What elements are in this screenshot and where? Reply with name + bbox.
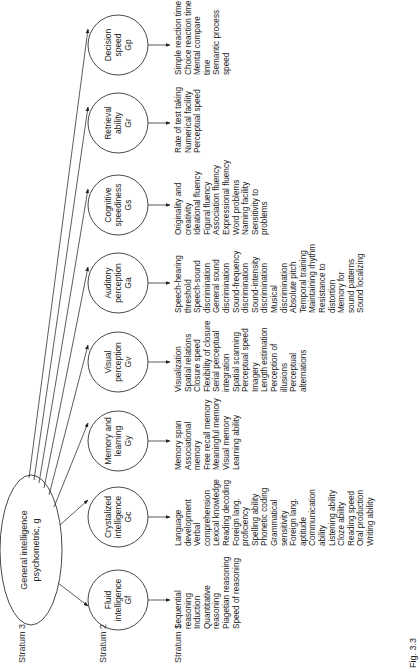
narrow-ability-item: Reading decoding [222, 479, 232, 546]
broad-ability-label-line: perception [113, 253, 123, 313]
narrow-ability-item: Visual memory [222, 398, 232, 470]
narrow-ability-item: time [203, 0, 213, 75]
narrow-list-gf: SequentialreasoningInductionQuantitative… [174, 557, 241, 629]
broad-ability-label-line: Fluid [103, 570, 113, 630]
narrow-list-gv: VisualizationSpatial relationsClosure sp… [174, 321, 308, 392]
narrow-list-gp: Simple reaction timeChoice reaction time… [174, 0, 232, 75]
narrow-ability-item: Simple reaction time [174, 0, 184, 75]
stratum-1-label: Stratum 1 [173, 624, 183, 663]
narrow-ability-item: Rate of test taking [174, 87, 184, 153]
narrow-ability-item: discrimination [222, 244, 232, 313]
narrow-ability-item: Absolute pitch [289, 244, 299, 313]
narrow-ability-item: memory [193, 398, 203, 470]
narrow-ability-item: Serial perceptual [212, 321, 222, 392]
narrow-ability-item: discrimination [260, 244, 270, 313]
broad-to-narrow-arrows [148, 45, 170, 600]
broad-ability-label-line: Gp [123, 15, 133, 75]
narrow-ability-item: discrimination [280, 244, 290, 313]
broad-ability-label-line: Gc [123, 487, 133, 547]
broad-ability-label-line: intelligence [113, 487, 123, 547]
narrow-ability-item: Numerical facility [184, 87, 194, 153]
narrow-ability-item: Oral production [356, 479, 366, 546]
narrow-ability-item: Lexical knowledge [212, 479, 222, 546]
narrow-ability-item: Sequential [174, 557, 184, 629]
narrow-ability-item: Phonetic coding [260, 479, 270, 546]
narrow-ability-item: Expressional fluency [222, 160, 232, 235]
narrow-ability-item: proficiency [241, 479, 251, 546]
narrow-ability-item: Speech-hearing [174, 244, 184, 313]
narrow-ability-item: Flexibility of closure [203, 321, 213, 392]
narrow-ability-item: Listening ability [328, 479, 338, 546]
narrow-ability-item: Perception of [270, 321, 280, 392]
narrow-ability-item: Ideational fluency [193, 160, 203, 235]
label-gf: Fluid intelligence Gf [103, 570, 133, 630]
narrow-ability-item: problems [260, 160, 270, 235]
broad-ability-label-line: speed [113, 15, 123, 75]
narrow-ability-item: sensitivity [280, 479, 290, 546]
narrow-ability-item: Mental compare [193, 0, 203, 75]
narrow-ability-item: alternations [299, 321, 309, 392]
narrow-ability-item: Sensitivity to [251, 160, 261, 235]
broad-ability-label-line: Crystalized [103, 487, 113, 547]
label-gs: Cognitive speediness Gs [103, 175, 133, 235]
label-gv: Visual perception Gv [103, 332, 133, 392]
broad-ability-label-line: Auditory [103, 253, 113, 313]
narrow-ability-item: Meaningful memory [212, 398, 222, 470]
narrow-ability-item: Spelling ability [251, 479, 261, 546]
narrow-ability-item: Semantic process [212, 0, 222, 75]
narrow-ability-item: Resistance to [318, 244, 328, 313]
narrow-ability-item: Perceptual [289, 321, 299, 392]
general-intelligence-line2: psychometric, g [31, 504, 43, 596]
narrow-ability-item: comprehension [203, 479, 213, 546]
narrow-ability-item: discrimination [241, 244, 251, 313]
narrow-ability-item: Sound localizing [356, 244, 366, 313]
broad-ability-label-line: Memory and [103, 411, 113, 471]
diagram-canvas: Stratum 3 Stratum 2 Stratum 1 General in… [0, 0, 419, 671]
narrow-ability-item: Musical [270, 244, 280, 313]
narrow-ability-item: Temporal training [299, 244, 309, 313]
label-gr: Retrieval ability Gr [103, 93, 133, 153]
broad-ability-label-line: perception [113, 332, 123, 392]
stratum-3-label: Stratum 3 [17, 624, 27, 663]
narrow-ability-item: Free recall memory [203, 398, 213, 470]
narrow-ability-item: Closure speed [193, 321, 203, 392]
narrow-ability-item: Choice reaction time [184, 0, 194, 75]
narrow-ability-item: reasoning [184, 557, 194, 629]
narrow-ability-item: Piagetian reasoning [222, 557, 232, 629]
broad-ability-label-line: learning [113, 411, 123, 471]
narrow-ability-item: Sound-intensity [251, 244, 261, 313]
narrow-ability-item: Learning ability [232, 398, 242, 470]
broad-ability-label-line: Gv [123, 332, 133, 392]
narrow-ability-item: Figural fluency [203, 160, 213, 235]
narrow-list-gy: Memory spanAssociationalmemoryFree recal… [174, 398, 241, 470]
narrow-ability-item: Associational [184, 398, 194, 470]
narrow-list-gc: LanguagedevelopmentVerbalcomprehensionLe… [174, 479, 375, 546]
narrow-list-gr: Rate of test takingNumerical facilityPer… [174, 87, 203, 153]
narrow-ability-item: development [184, 479, 194, 546]
narrow-ability-item: Naming facility [241, 160, 251, 235]
figure-caption: Fig. 3.3 [408, 638, 418, 668]
label-gp: Decision speed Gp [103, 15, 133, 75]
broad-ability-label-line: Gy [123, 411, 133, 471]
narrow-ability-item: Induction [193, 557, 203, 629]
label-gc: Crystalized intelligence Gc [103, 487, 133, 547]
narrow-ability-item: Perceptual speed [241, 321, 251, 392]
narrow-ability-item: Memory for [337, 244, 347, 313]
narrow-ability-item: Spatial scanning [232, 321, 242, 392]
narrow-ability-item: Speed of reasoning [232, 557, 242, 629]
broad-ability-label-line: Gf [123, 570, 133, 630]
narrow-ability-item: Cloze ability [337, 479, 347, 546]
broad-ability-label-line: speediness [113, 175, 123, 235]
broad-ability-label-line: Gs [123, 175, 133, 235]
narrow-ability-item: General sound [212, 244, 222, 313]
narrow-ability-item: ability [318, 479, 328, 546]
broad-ability-label-line: Ga [123, 253, 133, 313]
narrow-ability-item: illusions [280, 321, 290, 392]
narrow-ability-item: Maintaining rhythm [308, 244, 318, 313]
narrow-ability-item: Association fluency [212, 160, 222, 235]
narrow-ability-item: creativity [184, 160, 194, 235]
narrow-ability-item: aptitude [299, 479, 309, 546]
narrow-ability-item: speed [222, 0, 232, 75]
narrow-ability-item: Quantitative [203, 557, 213, 629]
narrow-ability-item: Reading speed [347, 479, 357, 546]
